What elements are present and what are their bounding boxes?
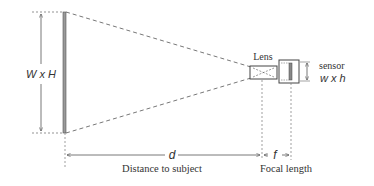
subject-plane xyxy=(63,12,66,133)
lens xyxy=(250,66,277,79)
lens-label: Lens xyxy=(253,51,273,62)
distance-symbol: d xyxy=(169,148,176,162)
focal-label: Focal length xyxy=(260,163,313,174)
sensor-dimension xyxy=(300,62,310,81)
sensor-size-label: w x h xyxy=(320,72,346,84)
sensor-housing xyxy=(279,60,299,83)
subject-size-label: W x H xyxy=(26,68,56,80)
extension-lines xyxy=(65,80,291,167)
focal-symbol: f xyxy=(273,148,278,162)
camera-geometry-diagram: W x H Lens sensor w x h d Distance to su… xyxy=(0,0,374,186)
field-of-view-lines xyxy=(66,12,251,133)
distance-label: Distance to subject xyxy=(122,163,202,174)
sensor-label: sensor xyxy=(319,60,345,71)
